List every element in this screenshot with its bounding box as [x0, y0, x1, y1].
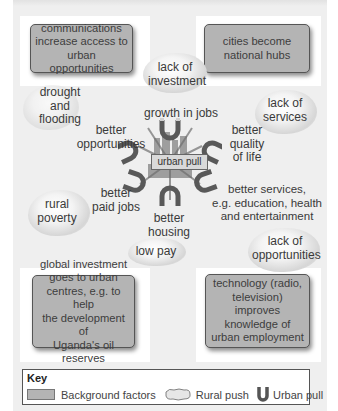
line: opportunities [252, 249, 318, 263]
line: growth in jobs [138, 107, 224, 121]
line: better [144, 212, 194, 226]
line: communications [35, 22, 128, 36]
legend-items: Background factors Rural push Urban pull [27, 387, 323, 402]
background-factor-global-investment: global investment goes to urban centres,… [32, 275, 135, 348]
line: e.g. education, health [208, 197, 326, 211]
line: investment [148, 75, 202, 89]
background-factor-cities-hubs: cities become national hubs [204, 24, 310, 73]
line: opportunities [76, 138, 146, 152]
line: cities become [223, 35, 291, 49]
magnet-icon [257, 387, 269, 402]
line: technology (radio, [210, 277, 305, 291]
legend-title: Key [27, 372, 47, 384]
cloud-icon [164, 388, 192, 401]
rural-push-rural-poverty: rural poverty [34, 198, 80, 225]
line: rural [34, 198, 80, 212]
rural-push-drought-flooding: drought and flooding [34, 86, 86, 127]
top-edge [13, 0, 327, 6]
line: lack of [252, 235, 318, 249]
urban-pull-better-housing: better housing [144, 212, 194, 239]
line: and entertainment [208, 210, 326, 224]
line: Uganda's oil reserves [37, 339, 130, 366]
line: urban employment [210, 331, 305, 345]
legend-label-urban-pull: Urban pull [273, 389, 323, 401]
line: better [88, 187, 144, 201]
line: the development of [37, 312, 130, 339]
rural-push-low-pay: low pay [133, 245, 179, 259]
legend-label-background-factors: Background factors [61, 389, 156, 401]
line: services [260, 111, 310, 125]
line: centres, e.g. to help [37, 285, 130, 312]
legend: Key Background factors Rural push Urban … [22, 369, 310, 405]
urban-pull-center-label: urban pull [151, 154, 208, 170]
urban-pull-better-opportunities: better opportunities [76, 124, 146, 151]
urban-pull-better-services: better services, e.g. education, health … [208, 183, 326, 224]
line: global investment [37, 258, 130, 272]
rural-push-lack-of-services: lack of services [260, 97, 310, 124]
line: knowledge of [210, 318, 305, 332]
line: of life [224, 151, 270, 165]
line: urban opportunities [35, 49, 128, 76]
line: better [76, 124, 146, 138]
background-factor-swatch [27, 389, 55, 400]
urban-pull-better-quality-of-life: better quality of life [224, 124, 270, 165]
background-factor-communications: communications increase access to urban … [30, 24, 133, 73]
line: television) improves [210, 291, 305, 318]
line: goes to urban [37, 271, 130, 285]
line: lack of [260, 97, 310, 111]
rural-push-lack-of-investment: lack of investment [148, 61, 202, 88]
background-factor-technology: technology (radio, television) improves … [205, 274, 310, 348]
line: low pay [133, 245, 179, 259]
urban-pull-growth-in-jobs: growth in jobs [138, 107, 224, 121]
urban-pull-better-paid-jobs: better paid jobs [88, 187, 144, 214]
line: better services, [208, 183, 326, 197]
line: lack of [148, 61, 202, 75]
line: better [224, 124, 270, 138]
line: national hubs [223, 49, 291, 63]
line: housing [144, 226, 194, 240]
rural-push-lack-of-opportunities: lack of opportunities [252, 235, 318, 262]
line: increase access to [35, 35, 128, 49]
line: paid jobs [88, 201, 144, 215]
line: drought [34, 86, 86, 100]
line: and [34, 100, 86, 114]
line: poverty [34, 212, 80, 226]
line: quality [224, 138, 270, 152]
legend-label-rural-push: Rural push [196, 389, 249, 401]
